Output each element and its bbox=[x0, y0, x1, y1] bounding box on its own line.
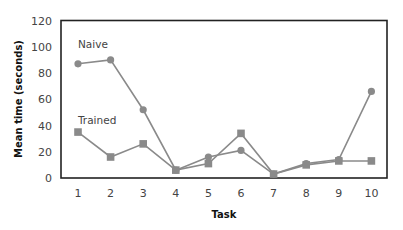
x-tick-label: 4 bbox=[172, 187, 179, 200]
data-point-naive bbox=[237, 147, 244, 154]
x-tick-label: 7 bbox=[270, 187, 277, 200]
data-point-trained bbox=[74, 128, 82, 136]
data-point-trained bbox=[368, 157, 376, 165]
series-group bbox=[74, 56, 375, 178]
x-tick-label: 1 bbox=[75, 187, 82, 200]
data-point-trained bbox=[172, 166, 180, 174]
data-point-trained bbox=[237, 130, 245, 138]
series-label-naive: Naive bbox=[78, 38, 108, 50]
y-axis-ticks: 020406080100120 bbox=[31, 15, 52, 186]
data-point-trained bbox=[335, 157, 343, 165]
line-chart: 020406080100120 12345678910 Naive Traine… bbox=[0, 0, 403, 230]
x-axis-label: Task bbox=[212, 209, 237, 220]
data-point-naive bbox=[368, 88, 375, 95]
x-tick-label: 3 bbox=[140, 187, 147, 200]
data-point-trained bbox=[139, 140, 147, 148]
y-tick-label: 0 bbox=[45, 172, 52, 185]
data-point-trained bbox=[107, 153, 115, 161]
x-tick-label: 10 bbox=[364, 187, 378, 200]
data-point-naive bbox=[74, 60, 81, 67]
data-point-trained bbox=[302, 161, 310, 169]
x-axis-ticks: 12345678910 bbox=[75, 187, 379, 200]
y-tick-label: 20 bbox=[38, 146, 52, 159]
x-tick-label: 2 bbox=[107, 187, 114, 200]
y-tick-label: 40 bbox=[38, 120, 52, 133]
data-point-trained bbox=[270, 170, 278, 178]
data-point-trained bbox=[205, 160, 213, 168]
data-point-naive bbox=[107, 56, 114, 63]
y-tick-label: 60 bbox=[38, 93, 52, 106]
x-tick-label: 5 bbox=[205, 187, 212, 200]
y-tick-label: 80 bbox=[38, 67, 52, 80]
x-tick-label: 6 bbox=[238, 187, 245, 200]
series-label-trained: Trained bbox=[77, 114, 116, 126]
data-point-naive bbox=[140, 106, 147, 113]
series-line-naive bbox=[78, 60, 371, 174]
x-tick-label: 8 bbox=[303, 187, 310, 200]
data-point-naive bbox=[205, 153, 212, 160]
y-tick-label: 100 bbox=[31, 41, 52, 54]
y-axis-label: Mean time (seconds) bbox=[13, 40, 24, 158]
x-tick-label: 9 bbox=[335, 187, 342, 200]
y-tick-label: 120 bbox=[31, 15, 52, 28]
